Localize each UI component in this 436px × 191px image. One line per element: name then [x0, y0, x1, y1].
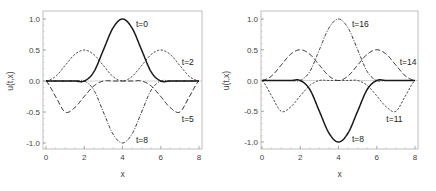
curve-label: t=8: [136, 135, 148, 145]
y-tick-label: 0.5: [247, 46, 259, 55]
curve-label: t=0: [136, 19, 148, 29]
x-tick-label: 4: [336, 153, 341, 162]
y-axis-title: u(t,x): [5, 71, 15, 91]
right-line-chart: 024681.00.50.0-0.5-1.0xu(t,x)t=16t=14t=1…: [218, 0, 436, 191]
right-chart-panel: 024681.00.50.0-0.5-1.0xu(t,x)t=16t=14t=1…: [218, 0, 436, 191]
x-tick-label: 6: [159, 153, 164, 162]
x-tick-label: 0: [44, 153, 49, 162]
x-tick-label: 8: [197, 153, 202, 162]
y-tick-label: 1.0: [29, 15, 41, 24]
x-tick-label: 6: [375, 153, 380, 162]
curve-label: t=8: [352, 134, 364, 144]
curve-label: t=11: [386, 114, 402, 124]
y-axis-title: u(t,x): [221, 71, 231, 91]
curve-label: t=5: [182, 114, 194, 124]
x-tick-label: 2: [82, 153, 87, 162]
curve-t-14: [262, 50, 415, 81]
x-tick-label: 0: [260, 153, 265, 162]
y-tick-label: -0.5: [26, 108, 40, 117]
x-tick-label: 8: [413, 153, 418, 162]
x-axis-title: x: [120, 169, 125, 179]
y-tick-label: -0.5: [244, 107, 258, 116]
curve-label: t=2: [182, 57, 194, 67]
curve-t-2: [46, 50, 199, 81]
curve-t-16: [262, 19, 415, 81]
y-tick-label: 1.0: [247, 15, 259, 24]
y-tick-label: 0.0: [29, 77, 41, 86]
x-axis-title: x: [337, 169, 342, 179]
curve-label: t=14: [400, 57, 417, 67]
y-tick-label: -1.0: [26, 139, 40, 148]
left-line-chart: 024681.00.50.0-0.5-1.0xu(t,x)t=0t=2t=5t=…: [0, 0, 218, 191]
plot-frame: [43, 11, 202, 149]
y-tick-label: 0.5: [29, 46, 41, 55]
curve-t-11: [262, 80, 415, 112]
left-chart-panel: 024681.00.50.0-0.5-1.0xu(t,x)t=0t=2t=5t=…: [0, 0, 218, 191]
x-tick-label: 4: [120, 153, 125, 162]
curve-t-0: [46, 19, 199, 82]
curve-label: t=16: [352, 19, 369, 29]
x-tick-label: 2: [298, 153, 303, 162]
curve-t-5: [46, 81, 199, 113]
y-tick-label: 0.0: [247, 77, 259, 86]
y-tick-label: -1.0: [244, 138, 258, 147]
